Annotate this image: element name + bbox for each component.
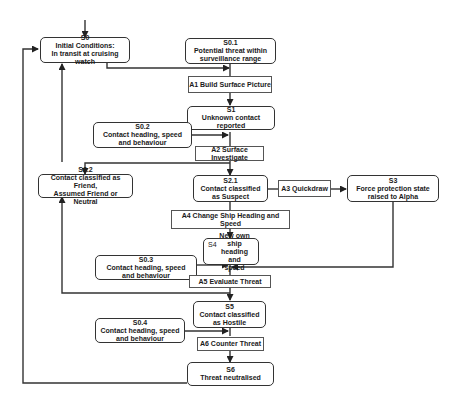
action-a3: A3 Quickdraw: [278, 180, 331, 197]
state-desc-line1: Contact heading, speed: [107, 264, 186, 272]
state-desc-line1: Contact classified as Friend,: [42, 174, 129, 190]
state-id: S0: [81, 34, 90, 42]
state-s4: S4 New own ship heading and speed: [203, 238, 259, 265]
state-s0: S0 Initial Conditions: In transit at cru…: [40, 37, 130, 63]
state-s0-3: S0.3 Contact heading, speed and behaviou…: [95, 255, 197, 280]
state-desc-line1: Contact heading, speed: [101, 327, 180, 335]
state-desc-line1: Contact heading, speed: [103, 131, 182, 139]
state-desc-line2: surveillance range: [200, 55, 261, 63]
state-desc-line2: raised to Alpha: [368, 193, 418, 201]
state-desc-line1: Threat neutralised: [200, 374, 261, 382]
state-desc-line2: Assumed Friend or Neutral: [42, 190, 129, 206]
state-s0-1: S0.1 Potential threat within surveillanc…: [185, 38, 276, 64]
state-desc-line1: Initial Conditions:: [55, 42, 114, 50]
state-desc-line2: heading and: [214, 248, 255, 264]
state-id: S0.1: [223, 39, 237, 47]
state-id: S2.1: [223, 177, 237, 185]
state-desc-line2: as Hostile: [213, 319, 246, 327]
state-flow-diagram: S0 Initial Conditions: In transit at cru…: [0, 0, 457, 407]
state-id: S6: [226, 366, 235, 374]
action-a1: A1 Build Surface Picture: [188, 76, 272, 93]
state-desc-line2: In transit at cruising watch: [44, 50, 126, 66]
state-desc-line3: speed: [224, 264, 244, 272]
state-s6: S6 Threat neutralised: [187, 362, 274, 386]
state-s2-1: S2.1 Contact classified as Suspect: [193, 175, 268, 202]
action-a2: A2 Surface Investigate: [195, 146, 264, 161]
state-id: S0.4: [133, 319, 147, 327]
state-id: S0.2: [135, 123, 149, 131]
state-desc-line1: Potential threat within: [194, 47, 267, 55]
state-desc-line1: Contact classified: [201, 185, 261, 193]
state-desc-line2: and behaviour: [116, 335, 164, 343]
action-a4: A4 Change Ship Heading and Speed: [171, 210, 290, 229]
state-desc-line1: Contact classified: [200, 311, 260, 319]
state-id: S5: [225, 303, 234, 311]
state-desc-line1: Unknown contact reported: [191, 114, 271, 130]
state-id: S2.2: [78, 166, 92, 174]
state-desc-line2: and behaviour: [119, 139, 167, 147]
state-id: S1: [227, 106, 236, 114]
state-s2-2: S2.2 Contact classified as Friend, Assum…: [38, 174, 133, 198]
state-desc-line1: Force protection state: [356, 185, 430, 193]
state-id: S3: [389, 177, 398, 185]
action-a5: A5 Evaluate Threat: [189, 275, 271, 288]
state-s3: S3 Force protection state raised to Alph…: [347, 175, 439, 202]
state-s0-2: S0.2 Contact heading, speed and behaviou…: [93, 122, 192, 148]
state-desc-line2: and behaviour: [122, 272, 170, 280]
state-id: S4: [208, 241, 217, 249]
state-desc-line1: New own ship: [214, 232, 255, 248]
state-s0-4: S0.4 Contact heading, speed and behaviou…: [95, 318, 185, 343]
state-id: S0.3: [139, 256, 153, 264]
state-desc-line2: as Suspect: [212, 193, 249, 201]
action-a6: A6 Counter Threat: [197, 337, 264, 351]
state-s1: S1 Unknown contact reported: [187, 106, 275, 130]
state-s5: S5 Contact classified as Hostile: [193, 301, 266, 328]
